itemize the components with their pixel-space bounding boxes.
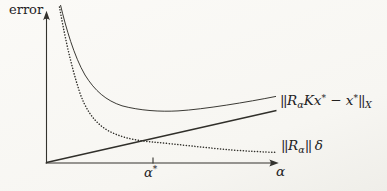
total-error-curve	[61, 5, 277, 111]
approximation-error-label: ||RαKx* − x*||X	[280, 93, 372, 110]
y-axis-label: error	[9, 3, 43, 17]
regularization-error-figure: error ||RαKx* − x*||X ||Rα||δ α* α	[0, 0, 387, 191]
approximation-error-line	[47, 111, 277, 163]
data-noise-error-curve	[60, 7, 277, 152]
alpha-star-tick-label: α*	[144, 165, 157, 179]
x-axis-label: α	[276, 164, 285, 178]
operator-K: K	[304, 92, 314, 108]
data-noise-error-label: ||Rα||δ	[281, 138, 323, 155]
minus-sign: −	[326, 92, 346, 108]
alpha-symbol: α	[144, 165, 153, 180]
norm-close: ||	[358, 92, 365, 108]
subscript-alpha: α	[298, 144, 304, 155]
operator-R: R	[287, 92, 297, 108]
superscript-star: *	[153, 164, 158, 174]
delta-symbol: δ	[312, 137, 323, 153]
operator-R: R	[288, 137, 298, 153]
subscript-X: X	[365, 99, 372, 110]
norm-close: ||	[305, 137, 312, 153]
